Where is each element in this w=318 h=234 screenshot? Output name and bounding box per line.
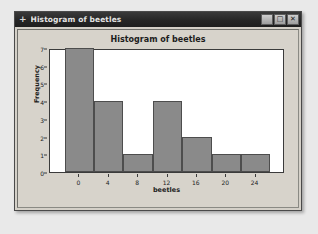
- x-tick-mark: [196, 174, 197, 177]
- histogram-bar: [123, 154, 152, 172]
- y-tick-label: 2: [40, 134, 44, 141]
- minimize-icon: _: [262, 18, 272, 24]
- y-tick-label: 1: [40, 152, 44, 159]
- histogram-chart: Histogram of beetles Frequency 01234567 …: [18, 30, 298, 207]
- plot-area: [49, 49, 284, 173]
- y-tick-mark: [44, 155, 47, 156]
- window-client-area: Histogram of beetles Frequency 01234567 …: [17, 29, 299, 208]
- y-tick-label: 4: [40, 99, 44, 106]
- x-tick-label: 20: [221, 179, 229, 186]
- histogram-window: + Histogram of beetles _ □ ✕ Histogram o…: [14, 11, 302, 211]
- histogram-bar: [94, 101, 123, 172]
- minimize-button[interactable]: _: [261, 14, 273, 25]
- x-tick-mark: [167, 174, 168, 177]
- y-tick-label: 5: [40, 81, 44, 88]
- maximize-button[interactable]: □: [274, 14, 286, 25]
- close-icon: ✕: [288, 15, 298, 24]
- chart-title: Histogram of beetles: [18, 35, 298, 44]
- y-tick-mark: [44, 102, 47, 103]
- y-tick-label: 7: [40, 46, 44, 53]
- histogram-bar: [241, 154, 270, 172]
- x-tick-label: 4: [106, 179, 110, 186]
- close-button[interactable]: ✕: [287, 14, 299, 25]
- x-tick-mark: [225, 174, 226, 177]
- y-tick-label: 0: [40, 170, 44, 177]
- histogram-bar: [65, 48, 94, 172]
- window-title-bar[interactable]: + Histogram of beetles _ □ ✕: [15, 12, 301, 27]
- bars-container: [50, 50, 283, 172]
- y-tick-mark: [44, 49, 47, 50]
- y-tick-mark: [44, 66, 47, 67]
- y-tick-label: 6: [40, 63, 44, 70]
- x-tick-label: 24: [251, 179, 259, 186]
- y-axis: 01234567: [30, 49, 47, 173]
- x-tick-mark: [78, 174, 79, 177]
- x-tick-label: 16: [192, 179, 200, 186]
- y-tick-mark: [44, 173, 47, 174]
- y-tick-mark: [44, 84, 47, 85]
- y-tick-mark: [44, 119, 47, 120]
- x-tick-label: 8: [135, 179, 139, 186]
- x-tick-label: 12: [163, 179, 171, 186]
- move-icon: +: [19, 15, 27, 24]
- x-tick-mark: [255, 174, 256, 177]
- maximize-icon: □: [275, 15, 285, 24]
- window-title: Histogram of beetles: [31, 15, 260, 24]
- y-tick-mark: [44, 137, 47, 138]
- x-axis-title: beetles: [49, 186, 284, 194]
- x-tick-mark: [108, 174, 109, 177]
- x-tick-label: 0: [76, 179, 80, 186]
- histogram-bar: [153, 101, 182, 172]
- x-tick-mark: [137, 174, 138, 177]
- y-tick-label: 3: [40, 116, 44, 123]
- histogram-bar: [212, 154, 241, 172]
- histogram-bar: [182, 137, 211, 172]
